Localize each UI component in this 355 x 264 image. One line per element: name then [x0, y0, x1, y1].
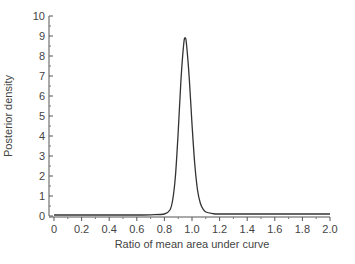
y-axis-label: Posterior density	[2, 75, 14, 157]
x-tick-label: 0	[51, 223, 57, 235]
y-tick-label: 6	[39, 90, 45, 102]
y-tick-label: 10	[33, 10, 45, 22]
y-tick-label: 3	[39, 150, 45, 162]
posterior-density-chart: 012345678910 00.20.40.60.81.01.21.41.61.…	[0, 0, 355, 264]
x-tick-label: 1.8	[295, 223, 310, 235]
y-tick-label: 4	[39, 130, 45, 142]
x-tick-label: 1.6	[267, 223, 282, 235]
y-tick-label: 0	[39, 210, 45, 222]
y-tick-label: 7	[39, 70, 45, 82]
y-tick-label: 1	[39, 190, 45, 202]
y-tick-label: 2	[39, 170, 45, 182]
x-tick-label: 2.0	[322, 223, 337, 235]
x-axis: 00.20.40.60.81.01.21.41.61.82.0	[49, 217, 338, 235]
posterior-density-curve	[54, 38, 330, 215]
x-tick-label: 0.2	[74, 223, 89, 235]
x-tick-label: 1.2	[212, 223, 227, 235]
x-tick-label: 0.6	[129, 223, 144, 235]
x-tick-label: 0.4	[102, 223, 117, 235]
x-axis-label: Ratio of mean area under curve	[115, 238, 270, 250]
x-tick-label: 0.8	[157, 223, 172, 235]
x-tick-label: 1.4	[240, 223, 255, 235]
x-tick-label: 1.0	[184, 223, 199, 235]
y-tick-label: 5	[39, 110, 45, 122]
y-tick-label: 9	[39, 30, 45, 42]
y-axis: 012345678910	[33, 10, 53, 222]
y-tick-label: 8	[39, 50, 45, 62]
